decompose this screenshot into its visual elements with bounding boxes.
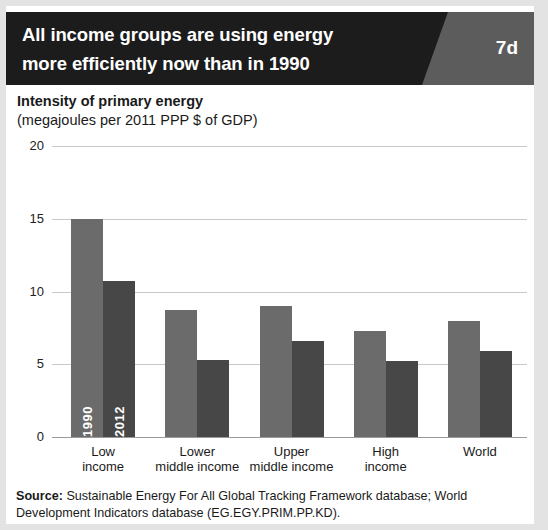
category-label-line-1: Low	[56, 444, 150, 459]
category-label-line-2: middle income	[150, 459, 244, 474]
x-axis-category-label: Lowermiddle income	[150, 444, 244, 474]
figure-container: All income groups are using energy more …	[0, 0, 548, 530]
category-label-line-2: income	[56, 459, 150, 474]
bar-1990-low-income[interactable]: 1990	[71, 219, 103, 437]
bars-layer: 19902012	[0, 146, 548, 437]
gridline-0	[52, 437, 527, 438]
category-label-line-1: World	[433, 444, 527, 459]
category-label-line-1: High	[339, 444, 433, 459]
category-label-line-2: middle income	[244, 459, 338, 474]
bar-1990-lower-middle-income[interactable]	[165, 310, 197, 437]
bar-series-label-1990: 1990	[80, 406, 95, 437]
category-label-line-1: Upper	[244, 444, 338, 459]
plot-area: 0510152019902012LowincomeLowermiddle inc…	[0, 0, 548, 530]
bar-1990-upper-middle-income[interactable]	[260, 306, 292, 437]
x-axis-category-label: World	[433, 444, 527, 459]
bar-2012-high-income[interactable]	[386, 361, 418, 437]
bar-2012-low-income[interactable]: 2012	[103, 281, 135, 437]
source-label: Source:	[16, 489, 63, 503]
source-note: Source: Sustainable Energy For All Globa…	[16, 488, 521, 522]
source-text: Sustainable Energy For All Global Tracki…	[16, 489, 467, 520]
category-label-line-2: income	[339, 459, 433, 474]
bar-1990-high-income[interactable]	[354, 331, 386, 437]
bar-2012-world[interactable]	[480, 351, 512, 437]
x-axis-category-label: Lowincome	[56, 444, 150, 474]
x-axis-category-label: Highincome	[339, 444, 433, 474]
x-axis-category-label: Uppermiddle income	[244, 444, 338, 474]
bar-2012-lower-middle-income[interactable]	[197, 360, 229, 437]
bar-1990-world[interactable]	[448, 321, 480, 437]
category-label-line-1: Lower	[150, 444, 244, 459]
bar-series-label-2012: 2012	[112, 406, 127, 437]
bar-2012-upper-middle-income[interactable]	[292, 341, 324, 437]
